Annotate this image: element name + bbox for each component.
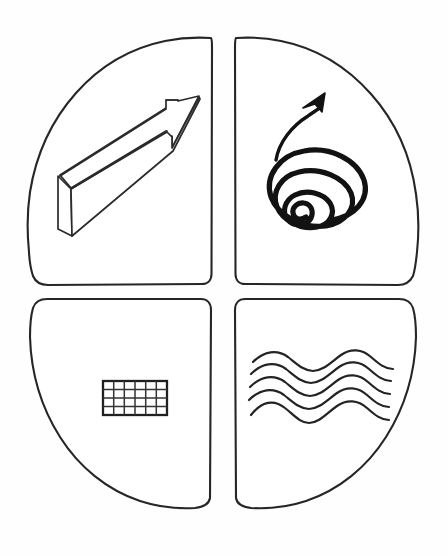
four-quadrant-diagram <box>0 0 448 556</box>
grid-table-icon <box>103 381 167 415</box>
figure-canvas: A hand-drawn circle split into four curv… <box>0 0 448 556</box>
